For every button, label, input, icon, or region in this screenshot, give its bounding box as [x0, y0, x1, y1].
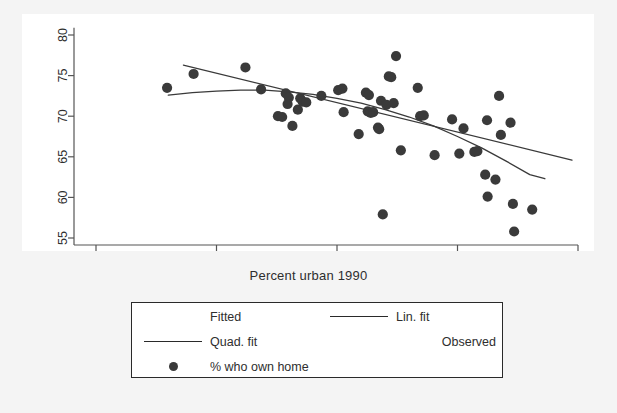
x-axis-title: Percent urban 1990 — [0, 268, 617, 283]
legend-label: Lin. fit — [390, 310, 429, 324]
plot-svg: 55606570758020406080100 — [22, 14, 594, 251]
svg-text:55: 55 — [56, 231, 70, 245]
legend-item[interactable]: Observed — [328, 329, 504, 354]
legend-item[interactable]: Quad. fit — [142, 329, 328, 354]
legend-item[interactable]: Lin. fit — [328, 304, 504, 329]
chart-legend: FittedLin. fitQuad. fitObserved% who own… — [131, 302, 503, 378]
svg-text:70: 70 — [56, 109, 70, 123]
legend-swatch-lin-fit — [328, 316, 390, 317]
svg-text:60: 60 — [56, 190, 70, 204]
legend-line-swatch — [144, 341, 202, 342]
legend-row: Quad. fitObserved — [132, 329, 502, 354]
legend-swatch-observed — [142, 362, 204, 371]
legend-row: FittedLin. fit — [132, 304, 502, 329]
chart-figure: 55606570758020406080100 Percent urban 19… — [0, 0, 617, 413]
legend-label: Fitted — [204, 310, 241, 324]
legend-label: Quad. fit — [204, 335, 257, 349]
svg-text:75: 75 — [56, 69, 70, 83]
legend-line-swatch — [330, 316, 388, 317]
legend-label: Observed — [390, 335, 504, 349]
svg-text:80: 80 — [56, 28, 70, 42]
legend-row: % who own home — [132, 354, 502, 379]
plot-panel: 55606570758020406080100 — [22, 14, 594, 251]
legend-item[interactable]: Fitted — [142, 304, 328, 329]
legend-dot-marker-icon — [169, 362, 178, 371]
legend-label: % who own home — [204, 360, 309, 374]
svg-text:65: 65 — [56, 150, 70, 164]
legend-swatch-quad-fit — [142, 341, 204, 342]
legend-item[interactable]: % who own home — [142, 354, 328, 379]
